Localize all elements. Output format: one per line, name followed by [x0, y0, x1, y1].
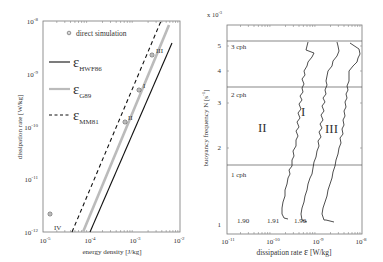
marker-ii: [123, 120, 127, 124]
right-y-tick-3: 3: [218, 99, 222, 107]
profile-label-ii: II: [258, 120, 267, 135]
right-y-tick-labels: 5 4 3 2 1: [218, 42, 222, 229]
left-x-tick-1e-5: 10-5: [39, 236, 51, 245]
marker-iii: [150, 53, 154, 57]
legend-g89-label: εG89: [73, 81, 92, 100]
left-y-tick-1e-9: 10-9: [27, 70, 39, 79]
right-x-tick-1e-11: 10-11: [221, 237, 235, 246]
slope-labels: 1.90 1.91 1.90: [237, 217, 307, 225]
slope-label-iii: 1.90: [294, 217, 307, 225]
left-y-axis-label: dissipation rate [W/kg]: [16, 95, 24, 160]
cph3-label: 3 cph: [231, 43, 247, 51]
left-y-tick-1e-12: 10-12: [24, 228, 38, 237]
left-y-tick-labels: 10-12 10-11 10-10 10-9 10-8: [24, 17, 38, 237]
right-x-tick-1e-8: 10-8: [355, 237, 367, 246]
figure-canvas: 10-12 10-11 10-10 10-9 10-8 10-5 10-4 10…: [0, 0, 383, 262]
left-x-tick-1e-4: 10-4: [84, 236, 96, 245]
left-legend: direct simulation εHWF86 εG89 εMM81: [49, 29, 127, 126]
legend-direct-simulation-label: direct simulation: [76, 29, 127, 38]
marker-iv: [48, 212, 52, 216]
g89-line: [83, 25, 169, 232]
left-x-tick-1e-3: 10-3: [129, 236, 141, 245]
marker-i: [137, 88, 141, 92]
right-x-tick-1e-10: 10-10: [266, 237, 280, 246]
profile-label-iii: III: [325, 121, 338, 136]
right-y-axis-label: buoyancy frequency N [s-1]: [201, 89, 210, 166]
right-y-tick-2: 2: [218, 144, 222, 152]
label-iii: III: [156, 47, 164, 55]
profile-label-i: I: [301, 104, 305, 119]
mm81-line: [72, 21, 161, 232]
y-axis-multiplier: x 10-3: [207, 10, 223, 18]
right-y-tick-4: 4: [218, 67, 222, 75]
profile-ii: [282, 42, 314, 219]
left-x-axis-label: energy density [J/kg]: [83, 248, 142, 256]
left-y-tick-1e-10: 10-10: [24, 123, 38, 132]
right-chart: x 10-3 5 4 3 2 1 10-11 10-10: [201, 10, 367, 257]
profile-labels: II I III: [258, 104, 338, 136]
cph1-label: 1 cph: [231, 171, 247, 179]
legend-hwf86-label: εHWF86: [73, 54, 102, 73]
legend-direct-simulation-marker-icon: [67, 31, 71, 35]
left-x-tick-labels: 10-5 10-4 10-3 10-2: [39, 236, 185, 245]
right-x-tick-1e-9: 10-9: [312, 237, 324, 246]
slope-label-ii: 1.90: [237, 217, 250, 225]
hwf86-line: [90, 43, 172, 232]
legend-mm81-label: εMM81: [73, 107, 99, 126]
cph-labels: 3 cph 2 cph 1 cph: [231, 43, 247, 179]
right-y-tick-1: 1: [218, 221, 222, 229]
label-iv: IV: [54, 224, 61, 232]
right-x-axis-label: dissipation rate ε [W/kg]: [256, 246, 331, 257]
left-x-tick-1e-2: 10-2: [173, 236, 185, 245]
cph2-label: 2 cph: [231, 91, 247, 99]
left-y-tick-1e-8: 10-8: [27, 17, 39, 26]
left-chart: 10-12 10-11 10-10 10-9 10-8 10-5 10-4 10…: [16, 17, 185, 256]
left-y-tick-1e-11: 10-11: [25, 175, 39, 184]
right-y-ticks: [227, 46, 362, 148]
slope-label-i: 1.91: [267, 217, 280, 225]
right-y-tick-5: 5: [218, 42, 222, 50]
right-x-tick-labels: 10-11 10-10 10-9 10-8: [221, 237, 367, 246]
label-ii: II: [128, 114, 133, 122]
